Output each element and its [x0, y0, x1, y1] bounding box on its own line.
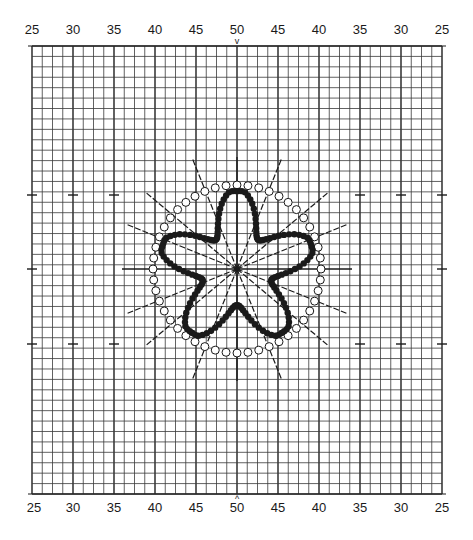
- chart-grid: [0, 0, 473, 540]
